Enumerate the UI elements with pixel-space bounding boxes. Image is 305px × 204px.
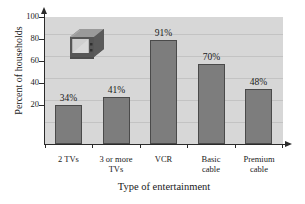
x-tick-1 [92,144,93,148]
x-tick-2 [140,144,141,148]
x-category-label-basic-cable: Basic cable [187,154,235,174]
x-category-line: TVs [92,164,140,174]
x-category-line: VCR [140,154,187,164]
bar-value-vcr: 91% [141,28,186,39]
bar-value-3-or-more-tvs: 41% [94,85,139,96]
y-tick-100 [39,17,45,18]
x-category-line: cable [235,164,283,174]
x-category-line: 2 TVs [45,154,92,164]
bar-chart: 100 80 60 40 20 Percent of households 34… [0,0,305,204]
x-category-line: Premium [235,154,283,164]
y-axis-line [44,13,45,144]
y-axis-title: Percent of households [13,6,24,136]
x-tick-0 [45,144,46,148]
x-category-label-premium-cable: Premium cable [235,154,283,174]
x-axis-line [44,144,286,145]
bar-basic-cable [198,64,225,144]
bar-value-basic-cable: 70% [189,52,234,63]
bar-3-or-more-tvs [103,97,130,144]
y-tick-60 [39,61,45,62]
y-tick-20 [39,105,45,106]
x-category-label-2-tvs: 2 TVs [45,154,92,164]
bar-value-premium-cable: 48% [236,77,281,88]
x-tick-3 [187,144,188,148]
y-tick-80 [39,39,45,40]
x-category-label-vcr: VCR [140,154,187,164]
bar-value-2-tvs: 34% [46,93,91,104]
bar-premium-cable [245,89,272,144]
television-icon [64,25,106,63]
x-tick-5 [282,144,283,148]
y-axis-arrow-icon [41,7,47,14]
x-category-line: cable [187,164,235,174]
x-category-line: Basic [187,154,235,164]
x-axis-title: Type of entertainment [45,181,283,193]
bar-vcr [150,40,177,144]
x-tick-4 [235,144,236,148]
bar-2-tvs [55,105,82,144]
y-tick-40 [39,83,45,84]
x-category-line: 3 or more [92,154,140,164]
x-category-label-3-or-more-tvs: 3 or more TVs [92,154,140,174]
x-axis-arrow-icon [285,141,292,147]
